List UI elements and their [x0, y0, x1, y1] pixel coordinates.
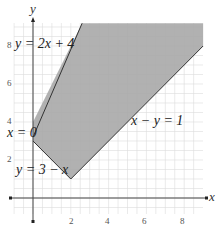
label-x-eq-0: x = 0: [6, 125, 37, 140]
y-tick-8: 8: [7, 40, 12, 50]
x-tick-4: 4: [105, 216, 110, 226]
x-tick-2: 2: [69, 216, 74, 226]
x-axis-label: x: [208, 189, 215, 204]
label-y-eq-2x-plus-4: y = 2x + 4: [13, 36, 74, 51]
y-axis-arrow-up: [31, 17, 35, 22]
feasible-region-chart: x y 2 4 6 8 2 4 6 8 y = 2x + 4 x = 0 y =…: [0, 0, 217, 227]
y-tick-6: 6: [7, 78, 12, 88]
x-axis-arrow-right: [205, 197, 208, 200]
x-axis-arrow-left: [9, 197, 12, 200]
y-tick-2: 2: [7, 154, 12, 164]
x-tick-8: 8: [180, 216, 185, 226]
label-x-minus-y-eq-1: x − y = 1: [130, 113, 183, 128]
label-y-eq-3-minus-x: y = 3 − x: [14, 162, 69, 177]
y-axis-arrow-down: [32, 220, 35, 223]
x-tick-6: 6: [142, 216, 147, 226]
y-axis-label: y: [28, 1, 36, 16]
